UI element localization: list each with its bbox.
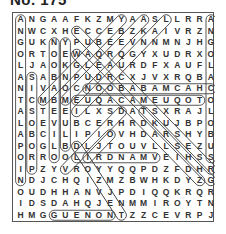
grid-cell[interactable]: U (82, 95, 93, 107)
grid-cell[interactable]: W (71, 49, 82, 61)
grid-cell[interactable]: O (116, 141, 127, 153)
grid-cell[interactable]: H (60, 187, 71, 199)
grid-cell[interactable]: N (116, 152, 127, 164)
grid-cell[interactable]: P (82, 129, 93, 141)
grid-cell[interactable]: I (160, 26, 171, 38)
grid-cell[interactable]: U (160, 95, 171, 107)
grid-cell[interactable]: E (60, 49, 71, 61)
grid-cell[interactable]: B (60, 141, 71, 153)
grid-cell[interactable]: P (194, 118, 205, 130)
grid-cell[interactable]: Q (116, 164, 127, 176)
grid-cell[interactable]: I (71, 106, 82, 118)
grid-cell[interactable]: N (49, 37, 60, 49)
grid-cell[interactable]: R (127, 60, 138, 72)
grid-cell[interactable]: X (160, 72, 171, 84)
grid-cell[interactable]: R (205, 164, 216, 176)
grid-cell[interactable]: D (26, 175, 37, 187)
grid-cell[interactable]: J (194, 106, 205, 118)
grid-cell[interactable]: C (93, 26, 104, 38)
grid-cell[interactable]: H (194, 164, 205, 176)
grid-cell[interactable]: I (15, 198, 26, 210)
grid-cell[interactable]: Z (194, 26, 205, 38)
grid-cell[interactable]: R (160, 129, 171, 141)
grid-cell[interactable]: R (26, 152, 37, 164)
grid-cell[interactable]: I (71, 129, 82, 141)
grid-cell[interactable]: R (194, 14, 205, 26)
grid-cell[interactable]: Y (183, 198, 194, 210)
grid-cell[interactable]: Z (160, 164, 171, 176)
grid-cell[interactable]: A (82, 49, 93, 61)
grid-cell[interactable]: A (127, 95, 138, 107)
grid-cell[interactable]: R (183, 26, 194, 38)
grid-cell[interactable]: V (172, 26, 183, 38)
grid-cell[interactable]: O (26, 118, 37, 130)
grid-cell[interactable]: U (60, 210, 71, 222)
grid-cell[interactable]: Z (37, 164, 48, 176)
grid-cell[interactable]: R (183, 210, 194, 222)
grid-cell[interactable]: E (93, 60, 104, 72)
grid-cell[interactable]: Q (116, 49, 127, 61)
grid-cell[interactable]: D (149, 164, 160, 176)
grid-cell[interactable]: E (60, 106, 71, 118)
grid-cell[interactable]: M (105, 14, 116, 26)
grid-cell[interactable]: R (127, 118, 138, 130)
grid-cell[interactable]: B (71, 118, 82, 130)
grid-cell[interactable]: R (37, 152, 48, 164)
grid-cell[interactable]: G (37, 210, 48, 222)
grid-cell[interactable]: P (15, 141, 26, 153)
grid-cell[interactable]: A (127, 83, 138, 95)
grid-cell[interactable]: R (172, 106, 183, 118)
grid-cell[interactable]: W (138, 175, 149, 187)
grid-cell[interactable]: A (60, 14, 71, 26)
grid-cell[interactable]: F (71, 14, 82, 26)
grid-cell[interactable]: M (138, 152, 149, 164)
grid-cell[interactable]: Q (127, 164, 138, 176)
grid-cell[interactable]: H (194, 83, 205, 95)
grid-cell[interactable]: I (26, 83, 37, 95)
grid-cell[interactable]: X (127, 72, 138, 84)
grid-cell[interactable]: T (37, 49, 48, 61)
grid-cell[interactable]: D (172, 175, 183, 187)
grid-cell[interactable]: Z (194, 141, 205, 153)
grid-cell[interactable]: C (37, 26, 48, 38)
grid-cell[interactable]: D (49, 198, 60, 210)
grid-cell[interactable]: M (160, 83, 171, 95)
grid-cell[interactable]: N (15, 26, 26, 38)
grid-cell[interactable]: L (49, 141, 60, 153)
grid-cell[interactable]: V (60, 164, 71, 176)
grid-cell[interactable]: Z (194, 175, 205, 187)
grid-cell[interactable]: E (105, 198, 116, 210)
grid-cell[interactable]: D (138, 129, 149, 141)
grid-cell[interactable]: H (60, 26, 71, 38)
grid-cell[interactable]: Y (60, 37, 71, 49)
grid-cell[interactable]: O (49, 49, 60, 61)
grid-cell[interactable]: E (183, 141, 194, 153)
grid-cell[interactable]: F (149, 60, 160, 72)
grid-cell[interactable]: A (105, 95, 116, 107)
grid-cell[interactable]: E (71, 26, 82, 38)
grid-cell[interactable]: D (183, 164, 194, 176)
grid-cell[interactable]: Y (183, 175, 194, 187)
grid-cell[interactable]: E (149, 95, 160, 107)
grid-cell[interactable]: S (149, 14, 160, 26)
grid-cell[interactable]: T (37, 106, 48, 118)
grid-cell[interactable]: K (60, 60, 71, 72)
grid-cell[interactable]: B (116, 83, 127, 95)
grid-cell[interactable]: B (138, 83, 149, 95)
grid-cell[interactable]: A (127, 14, 138, 26)
grid-cell[interactable]: K (172, 187, 183, 199)
grid-cell[interactable]: Q (93, 95, 104, 107)
grid-cell[interactable]: G (127, 49, 138, 61)
grid-cell[interactable]: A (15, 72, 26, 84)
grid-cell[interactable]: S (172, 129, 183, 141)
grid-cell[interactable]: M (127, 198, 138, 210)
grid-cell[interactable]: R (172, 72, 183, 84)
grid-cell[interactable]: A (172, 60, 183, 72)
grid-cell[interactable]: H (49, 187, 60, 199)
grid-cell[interactable]: Y (194, 129, 205, 141)
grid-cell[interactable]: N (26, 14, 37, 26)
grid-cell[interactable]: C (205, 83, 216, 95)
grid-cell[interactable]: S (194, 152, 205, 164)
grid-cell[interactable]: I (93, 129, 104, 141)
grid-cell[interactable]: E (105, 37, 116, 49)
